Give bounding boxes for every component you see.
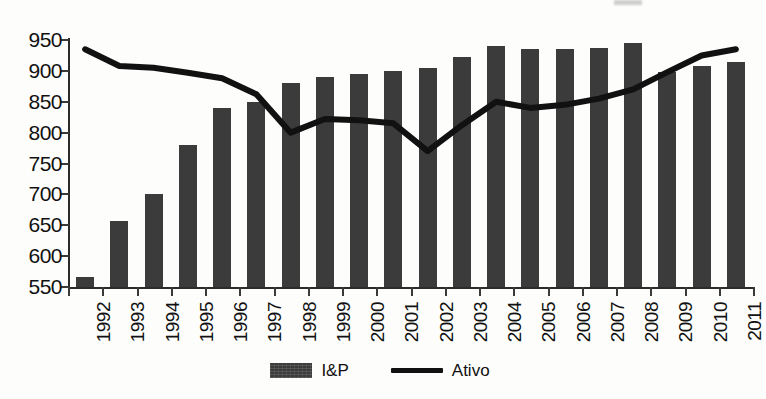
bar [453, 57, 471, 287]
legend-item-ativo: Ativo [391, 362, 490, 379]
x-tick-label: 2008 [641, 302, 663, 342]
x-tick-mark [239, 287, 241, 296]
y-tick-label: 650 [2, 213, 62, 237]
x-tick-label: 2005 [538, 302, 560, 342]
x-tick-mark [411, 287, 413, 296]
x-tick-mark [171, 287, 173, 296]
bar [419, 68, 437, 287]
x-tick-label: 2000 [367, 302, 389, 342]
x-tick-label: 2006 [573, 302, 595, 342]
x-tick-mark [753, 287, 755, 296]
y-tick-label: 800 [2, 121, 62, 145]
chart-legend: I&P Ativo [0, 362, 760, 379]
x-tick-label: 2007 [607, 302, 629, 342]
bar [316, 77, 334, 287]
bar [213, 108, 231, 287]
legend-line-swatch-icon [391, 368, 443, 373]
bar [590, 48, 608, 287]
bar [487, 46, 505, 287]
scan-artifact [614, 0, 642, 5]
x-tick-label: 2004 [504, 302, 526, 342]
bar [282, 83, 300, 287]
x-tick-mark [719, 287, 721, 296]
bar [727, 62, 745, 287]
x-tick-label: 1994 [162, 302, 184, 342]
bar [76, 277, 94, 287]
x-tick-label: 2011 [744, 302, 766, 341]
bar [179, 145, 197, 287]
legend-item-i-and-p: I&P [270, 362, 348, 379]
bar [350, 74, 368, 287]
line-series-ativo [68, 40, 753, 287]
x-tick-label: 2002 [436, 302, 458, 342]
x-tick-mark [342, 287, 344, 296]
bar [556, 49, 574, 287]
x-tick-mark [274, 287, 276, 296]
x-tick-label: 1999 [333, 302, 355, 342]
y-tick-label: 950 [2, 28, 62, 52]
x-tick-mark [102, 287, 104, 296]
y-tick-label: 900 [2, 59, 62, 83]
x-tick-label: 1998 [299, 302, 321, 342]
x-tick-mark [650, 287, 652, 296]
bar [110, 221, 128, 287]
x-tick-label: 2003 [470, 302, 492, 342]
x-tick-label: 1995 [196, 302, 218, 342]
x-tick-mark [68, 287, 70, 296]
x-tick-label: 1993 [127, 302, 149, 342]
bar [145, 194, 163, 287]
y-tick-label: 600 [2, 244, 62, 268]
x-tick-mark [685, 287, 687, 296]
bar [624, 43, 642, 287]
y-tick-label: 750 [2, 152, 62, 176]
x-tick-mark [479, 287, 481, 296]
x-tick-mark [513, 287, 515, 296]
x-tick-mark [445, 287, 447, 296]
x-tick-mark [616, 287, 618, 296]
x-tick-label: 2009 [675, 302, 697, 342]
x-tick-label: 2001 [401, 302, 423, 342]
legend-label-ativo: Ativo [452, 362, 490, 379]
y-tick-label: 850 [2, 90, 62, 114]
y-tick-label: 550 [2, 275, 62, 299]
bar [693, 66, 711, 287]
legend-label-i-and-p: I&P [321, 362, 348, 379]
bar [658, 72, 676, 287]
bar [521, 49, 539, 287]
x-tick-mark [548, 287, 550, 296]
x-tick-mark [376, 287, 378, 296]
x-tick-label: 1992 [93, 302, 115, 342]
x-tick-mark [137, 287, 139, 296]
x-tick-label: 2010 [710, 302, 732, 342]
legend-bar-swatch-icon [270, 363, 312, 378]
bar [247, 102, 265, 287]
bar [384, 71, 402, 287]
x-tick-label: 1997 [264, 302, 286, 342]
x-tick-label: 1996 [230, 302, 252, 342]
plot-area [68, 40, 753, 287]
x-tick-mark [582, 287, 584, 296]
x-tick-mark [205, 287, 207, 296]
x-tick-mark [308, 287, 310, 296]
y-tick-label: 700 [2, 182, 62, 206]
